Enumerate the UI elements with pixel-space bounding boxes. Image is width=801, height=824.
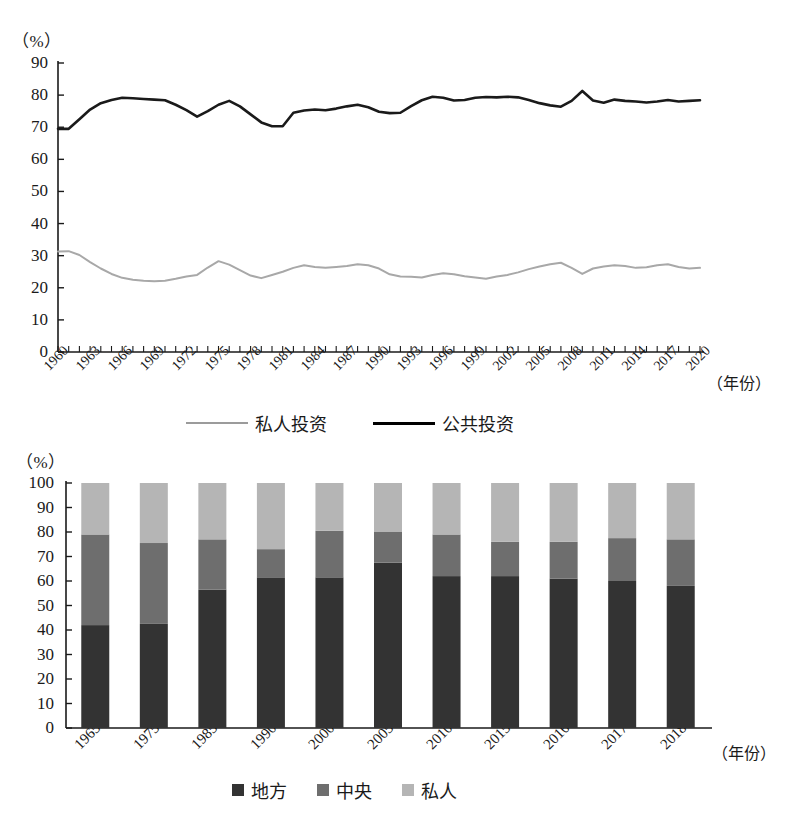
bar-segment-中央 [667, 539, 695, 586]
legend-label-private-investment: 私人投资 [255, 410, 327, 436]
bar-segment-地方 [550, 579, 578, 728]
bottom-x-tick-label: 2017 [598, 720, 631, 753]
bar-segment-私人 [374, 483, 402, 532]
bottom-x-tick-label: 2018 [657, 720, 690, 753]
top-x-tick-label: 1993 [394, 343, 425, 374]
figure-root: （%） 9080706050403020100 1960196319661969… [0, 0, 801, 824]
bar-segment-中央 [550, 542, 578, 579]
bar-segment-私人 [81, 483, 109, 534]
bar-segment-中央 [374, 532, 402, 563]
bar-segment-私人 [257, 483, 285, 549]
bar-segment-中央 [140, 543, 168, 624]
private-line-icon [186, 422, 248, 424]
public-line-icon [373, 422, 435, 425]
bottom-x-tick-label: 1985 [188, 720, 221, 753]
bottom-y-tick-label: 100 [14, 474, 54, 491]
top-y-tick-label: 90 [8, 54, 48, 71]
bar-segment-私人 [198, 483, 226, 539]
bottom-y-tick-label: 50 [14, 597, 54, 614]
top-x-tick-label: 1984 [297, 343, 328, 374]
top-x-tick-label: 1999 [458, 343, 489, 374]
bar-segment-中央 [315, 531, 343, 578]
bar-segment-地方 [491, 576, 519, 728]
line-chart-panel: （%） 9080706050403020100 1960196319661969… [0, 0, 801, 450]
top-x-tick-label: 1963 [73, 343, 104, 374]
bar-segment-地方 [198, 590, 226, 728]
bottom-y-tick-label: 10 [14, 695, 54, 712]
bottom-y-tick-label: 80 [14, 523, 54, 540]
top-chart-legend: 私人投资 公共投资 [186, 410, 514, 436]
top-y-tick-label: 0 [8, 343, 48, 360]
bottom-x-tick-label: 2010 [423, 720, 456, 753]
bottom-x-tick-label: 2015 [481, 720, 514, 753]
top-chart-axis-lines [58, 61, 704, 352]
bar-segment-私人 [315, 483, 343, 531]
top-y-tick-label: 80 [8, 86, 48, 103]
bar-segment-地方 [257, 577, 285, 728]
legend-label-local: 地方 [251, 777, 287, 803]
bottom-chart-unit-label: （%） [16, 448, 66, 473]
legend-item-public-investment: 公共投资 [373, 410, 514, 436]
top-x-tick-label: 1969 [137, 343, 168, 374]
top-x-tick-label: 2017 [651, 343, 682, 374]
top-x-tick-label: 1975 [201, 343, 232, 374]
top-y-tick-label: 20 [8, 279, 48, 296]
bottom-x-tick-label: 2005 [364, 720, 397, 753]
bottom-y-tick-label: 20 [14, 670, 54, 687]
bottom-chart-legend: 地方 中央 私人 [232, 777, 457, 803]
top-chart-x-axis-title: （年份） [707, 370, 771, 394]
top-y-tick-label: 60 [8, 150, 48, 167]
bottom-y-tick-label: 90 [14, 499, 54, 516]
top-x-tick-label: 1972 [169, 343, 200, 374]
top-x-tick-label: 1981 [265, 343, 296, 374]
bottom-x-tick-label: 1975 [130, 720, 163, 753]
local-swatch-icon [232, 784, 244, 796]
bottom-y-tick-label: 70 [14, 548, 54, 565]
bar-segment-中央 [198, 539, 226, 589]
legend-label-public-investment: 公共投资 [442, 410, 514, 436]
top-x-tick-label: 1987 [330, 343, 361, 374]
bar-segment-地方 [315, 577, 343, 728]
bottom-y-tick-label: 40 [14, 621, 54, 638]
bar-segment-中央 [491, 542, 519, 576]
bar-segment-中央 [257, 549, 285, 577]
top-chart-unit-label: （%） [12, 27, 62, 52]
bottom-chart-bars [81, 483, 694, 728]
top-x-tick-label: 1966 [105, 343, 136, 374]
legend-item-private: 私人 [402, 777, 457, 803]
bar-segment-中央 [81, 534, 109, 625]
bottom-x-tick-label: 1965 [71, 720, 104, 753]
bottom-x-tick-label: 2016 [540, 720, 573, 753]
legend-item-central: 中央 [317, 777, 372, 803]
bar-segment-地方 [667, 586, 695, 728]
legend-label-private: 私人 [421, 777, 457, 803]
line-私人投资 [58, 251, 700, 281]
bottom-chart-axis-lines [66, 481, 712, 728]
bar-segment-地方 [140, 624, 168, 728]
bar-segment-地方 [608, 581, 636, 728]
top-x-tick-label: 2005 [522, 343, 553, 374]
bar-segment-私人 [433, 483, 461, 534]
bar-segment-中央 [608, 538, 636, 581]
legend-item-private-investment: 私人投资 [186, 410, 327, 436]
top-y-tick-label: 30 [8, 247, 48, 264]
top-chart-series [58, 91, 700, 281]
line-公共投资 [58, 91, 700, 129]
bar-segment-地方 [433, 576, 461, 728]
top-y-tick-label: 70 [8, 118, 48, 135]
top-x-tick-label: 2014 [618, 343, 649, 374]
top-x-tick-label: 2011 [586, 343, 617, 374]
bar-segment-私人 [667, 483, 695, 539]
top-x-tick-label: 2008 [554, 343, 585, 374]
bar-segment-地方 [374, 563, 402, 728]
bottom-x-tick-label: 1990 [247, 720, 280, 753]
central-swatch-icon [317, 784, 329, 796]
bottom-y-tick-label: 60 [14, 572, 54, 589]
bar-segment-私人 [550, 483, 578, 542]
top-y-tick-label: 40 [8, 215, 48, 232]
bar-segment-私人 [608, 483, 636, 538]
bar-segment-私人 [140, 483, 168, 543]
top-x-tick-label: 2002 [490, 343, 521, 374]
legend-label-central: 中央 [336, 777, 372, 803]
top-x-tick-label: 1996 [426, 343, 457, 374]
